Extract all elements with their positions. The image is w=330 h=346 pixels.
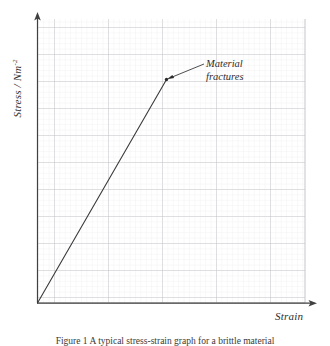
fracture-annotation-line1: Material (206, 58, 244, 71)
fracture-point-marker (165, 78, 168, 81)
fracture-annotation: Material fractures (206, 58, 244, 83)
y-axis-label-text: Stress / Nm (11, 65, 23, 117)
y-axis-label-wrap: Stress / Nm-2 (2, 36, 30, 146)
figure-caption: Figure 1 A typical stress-strain graph f… (0, 336, 330, 346)
x-axis-label: Strain (275, 310, 303, 322)
y-axis-label-exponent: -2 (11, 59, 19, 65)
y-axis-label: Stress / Nm-2 (11, 33, 24, 143)
fracture-annotation-line2: fractures (206, 71, 244, 84)
chart-grid (37, 19, 305, 303)
